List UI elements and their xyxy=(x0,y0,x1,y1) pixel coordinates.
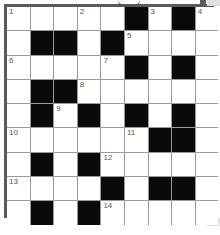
grid-cell-r0c8[interactable]: 4 xyxy=(196,7,219,30)
grid-cell-r5c8[interactable] xyxy=(196,128,219,151)
grid-cell-r3c4[interactable] xyxy=(101,80,124,103)
black-square xyxy=(54,80,77,103)
black-square xyxy=(172,104,195,127)
black-square xyxy=(172,56,195,79)
black-square xyxy=(125,104,148,127)
grid-cell-r3c6[interactable] xyxy=(149,80,172,103)
black-square xyxy=(125,7,148,30)
grid-cell-r0c4[interactable] xyxy=(101,7,124,30)
grid-cell-r1c8[interactable] xyxy=(196,31,219,54)
grid-cell-r5c1[interactable] xyxy=(31,128,54,151)
grid-cell-r2c4[interactable]: 7 xyxy=(101,56,124,79)
clue-number: 9 xyxy=(56,105,60,113)
grid-cell-r5c3[interactable] xyxy=(78,128,101,151)
grid-cell-r8c4[interactable]: 14 xyxy=(101,201,124,224)
grid-cell-r3c0[interactable] xyxy=(7,80,30,103)
grid-cell-r7c5[interactable] xyxy=(125,177,148,200)
black-square xyxy=(101,31,124,54)
grid-cell-r6c8[interactable] xyxy=(196,153,219,176)
grid-cell-r1c0[interactable] xyxy=(7,31,30,54)
black-square xyxy=(31,104,54,127)
clue-number: 14 xyxy=(103,202,112,210)
grid-cell-r7c8[interactable] xyxy=(196,177,219,200)
clue-number: 5 xyxy=(127,32,131,40)
grid-cell-r2c8[interactable] xyxy=(196,56,219,79)
grid-cell-r4c4[interactable] xyxy=(101,104,124,127)
grid-cell-r8c2[interactable] xyxy=(54,201,77,224)
grid-cell-r4c2[interactable]: 9 xyxy=(54,104,77,127)
black-square xyxy=(172,177,195,200)
grid-cell-r0c0[interactable]: 1 xyxy=(7,7,30,30)
black-square xyxy=(31,80,54,103)
black-square xyxy=(78,104,101,127)
black-square xyxy=(101,177,124,200)
grid-cell-r7c0[interactable]: 13 xyxy=(7,177,30,200)
grid-cell-r6c2[interactable] xyxy=(54,153,77,176)
grid-cell-r8c8[interactable] xyxy=(196,201,219,224)
black-square xyxy=(31,153,54,176)
black-square xyxy=(149,177,172,200)
clue-number: 4 xyxy=(198,8,202,16)
grid-cell-r4c0[interactable] xyxy=(7,104,30,127)
grid-cell-r1c7[interactable] xyxy=(172,31,195,54)
clue-number: 1 xyxy=(9,8,13,16)
grid-cell-r4c6[interactable] xyxy=(149,104,172,127)
crossword-grid: 1234567891011121314 xyxy=(7,7,218,225)
grid-cell-r6c6[interactable] xyxy=(149,153,172,176)
black-square xyxy=(54,31,77,54)
grid-cell-r8c5[interactable] xyxy=(125,201,148,224)
grid-cell-r3c8[interactable] xyxy=(196,80,219,103)
grid-cell-r3c5[interactable] xyxy=(125,80,148,103)
grid-cell-r1c5[interactable]: 5 xyxy=(125,31,148,54)
grid-cell-r4c8[interactable] xyxy=(196,104,219,127)
grid-cell-r5c0[interactable]: 10 xyxy=(7,128,30,151)
cropped-title-fragment xyxy=(118,0,140,7)
clue-number: 13 xyxy=(9,178,18,186)
background-fragment xyxy=(207,0,220,6)
grid-cell-r6c0[interactable] xyxy=(7,153,30,176)
grid-cell-r3c7[interactable] xyxy=(172,80,195,103)
grid-cell-r6c4[interactable]: 12 xyxy=(101,153,124,176)
clue-number: 2 xyxy=(80,8,84,16)
grid-cell-r0c6[interactable]: 3 xyxy=(149,7,172,30)
grid-cell-r8c6[interactable] xyxy=(149,201,172,224)
grid-cell-r3c3[interactable]: 8 xyxy=(78,80,101,103)
grid-cell-r2c2[interactable] xyxy=(54,56,77,79)
clue-number: 10 xyxy=(9,129,18,137)
grid-cell-r0c3[interactable]: 2 xyxy=(78,7,101,30)
black-square xyxy=(31,31,54,54)
black-square xyxy=(172,7,195,30)
grid-cell-r2c0[interactable]: 6 xyxy=(7,56,30,79)
black-square xyxy=(31,201,54,224)
grid-cell-r2c3[interactable] xyxy=(78,56,101,79)
clue-number: 3 xyxy=(151,8,155,16)
clue-number: 6 xyxy=(9,57,13,65)
clue-number: 11 xyxy=(127,129,135,137)
black-square xyxy=(125,56,148,79)
grid-cell-r5c4[interactable] xyxy=(101,128,124,151)
clue-number: 8 xyxy=(80,81,84,89)
frame-corner xyxy=(200,0,206,6)
grid-cell-r5c5[interactable]: 11 xyxy=(125,128,148,151)
grid-cell-r0c2[interactable] xyxy=(54,7,77,30)
grid-cell-r0c1[interactable] xyxy=(31,7,54,30)
grid-cell-r7c3[interactable] xyxy=(78,177,101,200)
grid-cell-r2c6[interactable] xyxy=(149,56,172,79)
black-square xyxy=(172,128,195,151)
black-square xyxy=(78,153,101,176)
grid-cell-r6c7[interactable] xyxy=(172,153,195,176)
grid-cell-r7c2[interactable] xyxy=(54,177,77,200)
grid-cell-r5c2[interactable] xyxy=(54,128,77,151)
grid-cell-r7c1[interactable] xyxy=(31,177,54,200)
black-square xyxy=(78,201,101,224)
grid-cell-r1c6[interactable] xyxy=(149,31,172,54)
grid-cell-r8c7[interactable] xyxy=(172,201,195,224)
grid-cell-r1c3[interactable] xyxy=(78,31,101,54)
black-square xyxy=(149,128,172,151)
grid-cell-r6c5[interactable] xyxy=(125,153,148,176)
clue-number: 7 xyxy=(103,57,107,65)
grid-cell-r8c0[interactable] xyxy=(7,201,30,224)
clue-number: 12 xyxy=(103,154,112,162)
grid-cell-r2c1[interactable] xyxy=(31,56,54,79)
